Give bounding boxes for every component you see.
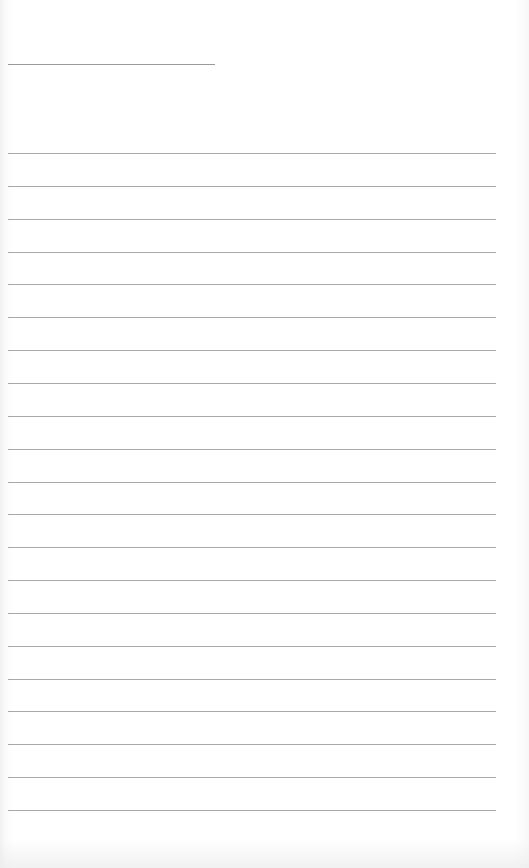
ruled-line	[8, 449, 496, 450]
ruled-line	[8, 679, 496, 680]
ruled-line	[8, 317, 496, 318]
ruled-line	[8, 284, 496, 285]
scan-shadow	[0, 840, 529, 868]
ruled-line	[8, 153, 496, 154]
ruled-line	[8, 383, 496, 384]
ruled-line	[8, 514, 496, 515]
ruled-line	[8, 777, 496, 778]
ruled-line	[8, 252, 496, 253]
ruled-line	[8, 613, 496, 614]
ruled-line	[8, 186, 496, 187]
ruled-line	[8, 744, 496, 745]
ruled-line	[8, 547, 496, 548]
ruled-line	[8, 219, 496, 220]
ruled-line	[8, 350, 496, 351]
ruled-line	[8, 646, 496, 647]
ruled-line	[8, 810, 496, 811]
ruled-line	[8, 482, 496, 483]
header-blank-line	[8, 64, 215, 65]
ruled-line	[8, 580, 496, 581]
ruled-line	[8, 416, 496, 417]
lined-paper-page	[0, 0, 529, 868]
ruled-line	[8, 711, 496, 712]
